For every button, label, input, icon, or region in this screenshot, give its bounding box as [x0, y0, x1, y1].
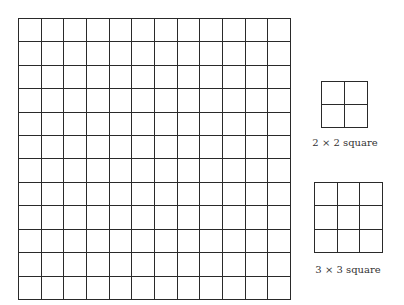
grid-cell [19, 159, 42, 182]
grid-cell [19, 66, 42, 89]
grid-cell [42, 183, 65, 206]
grid-cell [268, 277, 291, 300]
grid-cell [42, 136, 65, 159]
grid-cell [268, 206, 291, 229]
grid-cell [19, 136, 42, 159]
grid-cell [315, 183, 338, 206]
grid-cell [246, 42, 269, 65]
grid-cell [87, 277, 110, 300]
grid-cell [132, 230, 155, 253]
grid-cell [246, 19, 269, 42]
grid-cell [246, 183, 269, 206]
grid-cell [178, 89, 201, 112]
grid-cell [64, 159, 87, 182]
grid-cell [87, 42, 110, 65]
grid-cell [64, 136, 87, 159]
grid-cell [19, 253, 42, 276]
grid-cell [87, 66, 110, 89]
grid-cell [19, 89, 42, 112]
grid-cell [64, 89, 87, 112]
grid-cell [155, 136, 178, 159]
grid-cell [200, 230, 223, 253]
grid-cell [19, 230, 42, 253]
label-2x2-square: 2 × 2 square [312, 137, 377, 148]
grid-cell [223, 89, 246, 112]
grid-cell [155, 89, 178, 112]
grid-cell [268, 66, 291, 89]
grid-cell [345, 105, 368, 128]
grid-cell [338, 230, 361, 253]
grid-cell [110, 89, 133, 112]
grid-cell [178, 206, 201, 229]
grid-cell [19, 206, 42, 229]
square-3x3 [314, 182, 383, 253]
grid-cell [268, 159, 291, 182]
grid-cell [64, 42, 87, 65]
grid-cell [200, 206, 223, 229]
grid-cell [246, 113, 269, 136]
grid-cell [42, 206, 65, 229]
grid-cell [223, 183, 246, 206]
grid-cell [200, 253, 223, 276]
grid-cell [178, 159, 201, 182]
grid-cell [322, 82, 345, 105]
grid-cell [268, 89, 291, 112]
grid-cell [42, 253, 65, 276]
grid-cell [246, 206, 269, 229]
grid-cell [178, 42, 201, 65]
grid-cell [223, 19, 246, 42]
grid-cell [87, 113, 110, 136]
grid-cell [200, 159, 223, 182]
grid-cell [345, 82, 368, 105]
grid-cell [42, 19, 65, 42]
grid-cell [87, 253, 110, 276]
grid-cell [19, 19, 42, 42]
grid-cell [246, 277, 269, 300]
grid-cell [223, 66, 246, 89]
grid-cell [132, 206, 155, 229]
grid-cell [42, 277, 65, 300]
square-2x2 [321, 81, 368, 128]
grid-cell [246, 89, 269, 112]
grid-cell [223, 277, 246, 300]
grid-cell [178, 253, 201, 276]
grid-cell [223, 230, 246, 253]
grid-cell [87, 230, 110, 253]
grid-cell [200, 113, 223, 136]
grid-cell [200, 42, 223, 65]
grid-cell [42, 66, 65, 89]
grid-cell [223, 159, 246, 182]
grid-cell [64, 19, 87, 42]
grid-cell [42, 230, 65, 253]
grid-cell [246, 136, 269, 159]
grid-cell [268, 42, 291, 65]
grid-cell [132, 89, 155, 112]
grid-cell [338, 183, 361, 206]
grid-cell [87, 183, 110, 206]
grid-cell [132, 19, 155, 42]
grid-cell [178, 183, 201, 206]
grid-cell [110, 159, 133, 182]
grid-cell [178, 113, 201, 136]
grid-cell [315, 230, 338, 253]
grid-cell [19, 277, 42, 300]
grid-cell [155, 230, 178, 253]
grid-cell [268, 183, 291, 206]
grid-cell [268, 136, 291, 159]
grid-cell [200, 19, 223, 42]
grid-cell [132, 159, 155, 182]
grid-cell [110, 277, 133, 300]
grid-cell [132, 113, 155, 136]
grid-cell [268, 253, 291, 276]
grid-cell [110, 183, 133, 206]
grid-cell [178, 277, 201, 300]
grid-cell [19, 113, 42, 136]
grid-cell [42, 159, 65, 182]
grid-cell [87, 159, 110, 182]
grid-cell [64, 206, 87, 229]
label-3x3-square: 3 × 3 square [315, 264, 380, 275]
grid-cell [246, 159, 269, 182]
grid-cell [110, 136, 133, 159]
grid-cell [268, 230, 291, 253]
grid-cell [110, 66, 133, 89]
